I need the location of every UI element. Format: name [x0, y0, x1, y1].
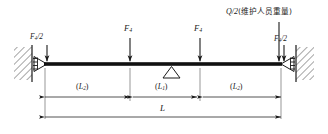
dim-label-right-span: (L2) [230, 83, 243, 92]
beam [44, 62, 282, 66]
dim-label-middle-span: (L1) [155, 83, 168, 92]
right-reaction-label: F4/2 [274, 35, 287, 43]
beam-load-diagram: F4/2 F4 F4 F4/2 Q/2(维护人员重量) (L2) (L1) (L… [0, 0, 328, 134]
diagram-canvas [0, 0, 328, 134]
personnel-load-label: Q/2(维护人员重量) [226, 8, 292, 16]
left-wall-support [14, 45, 47, 82]
load-label-2: F4 [194, 24, 202, 34]
right-wall-support [281, 45, 314, 82]
dim-label-left-span: (L2) [76, 83, 89, 92]
left-wall-hatch [14, 47, 32, 80]
load-label-1: F4 [124, 24, 132, 34]
dim-label-total: L [160, 104, 165, 113]
left-reaction-label: F4/2 [30, 33, 43, 41]
center-triangle-support [163, 67, 180, 79]
right-wall-hatch [296, 47, 314, 80]
